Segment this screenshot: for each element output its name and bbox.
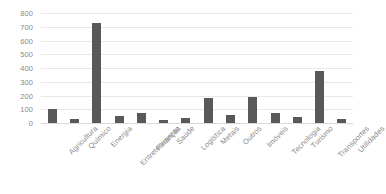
bar [226,115,235,123]
x-axis-tick-label: Energia [108,124,133,149]
y-axis-tick-label: 600 [20,36,33,45]
bar [204,98,213,123]
bar [315,71,324,123]
bar [48,109,57,123]
bar [248,97,257,123]
y-axis-tick-label: 0 [29,119,33,128]
y-axis-tick-label: 400 [20,64,33,73]
bar [137,113,146,123]
y-axis: 8007006005004003002001000 [0,0,38,194]
x-axis: AgriculturaQuímicoEnergiaEntretenimentoF… [41,124,353,194]
x-axis-tick-label: Imóveis [264,124,289,149]
y-axis-tick-label: 200 [20,91,33,100]
y-axis-tick-label: 500 [20,50,33,59]
bar [337,119,346,123]
bar [115,116,124,123]
x-axis-tick-label: Outros [241,124,264,147]
bar [70,119,79,123]
bar [271,113,280,123]
bar [159,120,168,123]
bar [181,118,190,123]
plot-area [41,13,353,123]
y-axis-tick-label: 800 [20,9,33,18]
y-axis-tick-label: 700 [20,22,33,31]
y-axis-tick-label: 300 [20,77,33,86]
bar [92,23,101,123]
bars-group [41,13,353,123]
bar [293,117,302,123]
y-axis-tick-label: 100 [20,105,33,114]
